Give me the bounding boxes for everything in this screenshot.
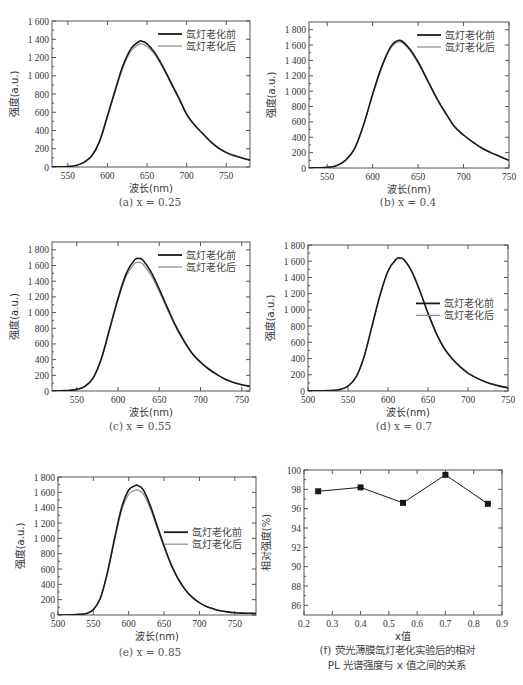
x-tick-label: 600 — [122, 619, 137, 629]
y-axis-label: 强度(a.u.) — [8, 293, 20, 340]
caption-f: (f) 荧光薄膜氙灯老化实验后的相对 PL 光谱强度与 x 值之间的关系 — [282, 643, 512, 673]
y-tick-label: 800 — [292, 102, 307, 112]
chart-b: 02004006008001 0001 2001 4001 6001 80055… — [262, 0, 523, 200]
y-tick-label: 1 000 — [285, 87, 307, 97]
series-before-aging — [308, 258, 508, 391]
y-tick-label: 1 200 — [28, 53, 50, 63]
x-tick-label: 600 — [100, 171, 115, 181]
x-tick-label: 0.7 — [439, 619, 451, 629]
y-tick-label: 1 600 — [34, 488, 56, 498]
y-tick-label: 400 — [35, 355, 50, 365]
y-tick-label: 1 200 — [285, 71, 307, 81]
x-tick-label: 600 — [381, 395, 396, 405]
x-tick-label: 550 — [320, 172, 335, 182]
panel-e: 02004006008001 0001 2001 4001 6001 80050… — [0, 450, 262, 670]
y-tick-label: 98 — [292, 485, 302, 495]
caption-e: (e) x = 0.85 — [60, 646, 240, 658]
y-axis-label: 强度(a.u.) — [14, 523, 26, 570]
y-tick-label: 400 — [41, 580, 56, 590]
y-tick-label: 1 400 — [285, 56, 307, 66]
panel-d: 02004006008001 0001 2001 4001 6001 80050… — [262, 225, 523, 445]
x-tick-label: 500 — [301, 395, 316, 405]
y-tick-label: 100 — [287, 466, 302, 476]
y-tick-label: 400 — [35, 126, 50, 136]
panel-c: 02004006008001 0001 2001 4001 6001 80055… — [0, 225, 262, 445]
y-tick-label: 200 — [41, 595, 56, 605]
y-tick-label: 0 — [301, 164, 306, 174]
x-tick-label: 0.8 — [468, 619, 480, 629]
relative-intensity-line — [318, 475, 488, 504]
series-after-aging — [52, 262, 250, 391]
chart-d: 02004006008001 0001 2001 4001 6001 80050… — [262, 225, 523, 425]
x-tick-label: 0.6 — [411, 619, 423, 629]
y-tick-label: 1 400 — [34, 503, 56, 513]
legend-before: 氙灯老化前 — [192, 526, 242, 538]
x-tick-label: 0.4 — [355, 619, 367, 629]
y-tick-label: 1 000 — [284, 305, 306, 315]
y-tick-label: 400 — [292, 133, 307, 143]
series-after-aging — [309, 42, 509, 168]
series-before-aging — [309, 40, 509, 168]
x-tick-label: 700 — [456, 172, 471, 182]
data-marker-square — [400, 500, 406, 506]
x-tick-label: 0.3 — [326, 619, 338, 629]
y-tick-label: 1 600 — [28, 261, 50, 271]
legend-after: 氙灯老化后 — [192, 538, 242, 550]
y-tick-label: 200 — [35, 144, 50, 154]
y-tick-label: 1 800 — [285, 25, 307, 35]
series-before-aging — [52, 258, 250, 391]
legend-before: 氙灯老化前 — [445, 29, 495, 41]
x-axis-label: 波长(nm) — [129, 182, 173, 194]
y-tick-label: 1 600 — [285, 41, 307, 51]
panel-f: 868890929496981000.20.30.40.50.60.70.80.… — [262, 450, 523, 675]
x-axis-label: 波长(nm) — [129, 406, 173, 418]
caption-c: (c) x = 0.55 — [50, 420, 230, 432]
y-tick-label: 600 — [35, 108, 50, 118]
legend-before: 氙灯老化前 — [186, 249, 236, 261]
x-axis-label: 波长(nm) — [135, 630, 179, 642]
y-tick-label: 1 400 — [28, 35, 50, 45]
x-tick-label: 700 — [192, 619, 207, 629]
x-tick-label: 750 — [501, 395, 516, 405]
chart-e: 02004006008001 0001 2001 4001 6001 80050… — [0, 450, 262, 650]
y-axis-label: 强度(a.u.) — [8, 71, 20, 118]
x-tick-label: 750 — [235, 395, 250, 405]
y-axis-label: 强度(a.u.) — [264, 295, 276, 342]
x-tick-label: 750 — [228, 619, 243, 629]
y-tick-label: 200 — [292, 148, 307, 158]
y-tick-label: 600 — [35, 339, 50, 349]
figure-caption-partial — [0, 676, 523, 685]
panel-a: 02004006008001 0001 2001 4001 6005506006… — [0, 0, 262, 220]
x-tick-label: 750 — [502, 172, 517, 182]
legend-before: 氙灯老化前 — [186, 28, 236, 40]
x-tick-label: 600 — [366, 172, 381, 182]
y-tick-label: 400 — [291, 354, 306, 364]
data-marker-square — [485, 501, 491, 507]
y-tick-label: 86 — [292, 601, 302, 611]
y-tick-label: 88 — [292, 582, 302, 592]
x-axis-label: x值 — [395, 630, 411, 642]
y-tick-label: 1 000 — [28, 308, 50, 318]
x-tick-label: 0.9 — [496, 619, 508, 629]
series-after-aging — [308, 258, 508, 391]
y-tick-label: 800 — [291, 322, 306, 332]
x-axis-label: 波长(nm) — [386, 406, 430, 418]
caption-b: (b) x = 0.4 — [318, 196, 498, 208]
x-tick-label: 550 — [341, 395, 356, 405]
series-after-aging — [58, 490, 256, 615]
x-axis-label: 波长(nm) — [387, 183, 431, 195]
plot-frame — [304, 470, 502, 615]
chart-f: 868890929496981000.20.30.40.50.60.70.80.… — [262, 450, 523, 650]
x-tick-label: 700 — [461, 395, 476, 405]
x-tick-label: 650 — [152, 395, 167, 405]
y-axis-label: 相对强度(%) — [260, 514, 272, 571]
x-tick-label: 650 — [157, 619, 172, 629]
x-tick-label: 650 — [140, 171, 155, 181]
x-tick-label: 500 — [51, 619, 66, 629]
y-tick-label: 96 — [292, 504, 302, 514]
chart-c: 02004006008001 0001 2001 4001 6001 80055… — [0, 225, 262, 425]
y-tick-label: 92 — [292, 543, 302, 553]
chart-a: 02004006008001 0001 2001 4001 6005506006… — [0, 0, 262, 200]
x-tick-label: 700 — [193, 395, 208, 405]
caption-f-line1: (f) 荧光薄膜氙灯老化实验后的相对 — [282, 643, 512, 658]
